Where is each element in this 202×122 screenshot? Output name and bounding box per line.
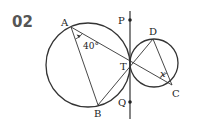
angle-label-c: x	[160, 68, 166, 79]
point-q-dot	[128, 100, 132, 104]
label-q: Q	[118, 97, 126, 108]
label-b: B	[94, 108, 101, 119]
label-c: C	[172, 88, 180, 99]
right-circle	[130, 39, 178, 87]
segment-bd	[98, 39, 153, 105]
label-d: D	[149, 26, 157, 37]
angle-label-a: 40°	[83, 41, 99, 51]
point-p-dot	[128, 18, 132, 22]
label-a: A	[60, 17, 69, 28]
label-t: T	[120, 61, 127, 72]
geometry-diagram: A B T D C P Q 40° x	[0, 0, 202, 122]
left-circle	[46, 23, 130, 107]
segment-ab	[71, 27, 98, 105]
label-p: P	[118, 15, 125, 26]
